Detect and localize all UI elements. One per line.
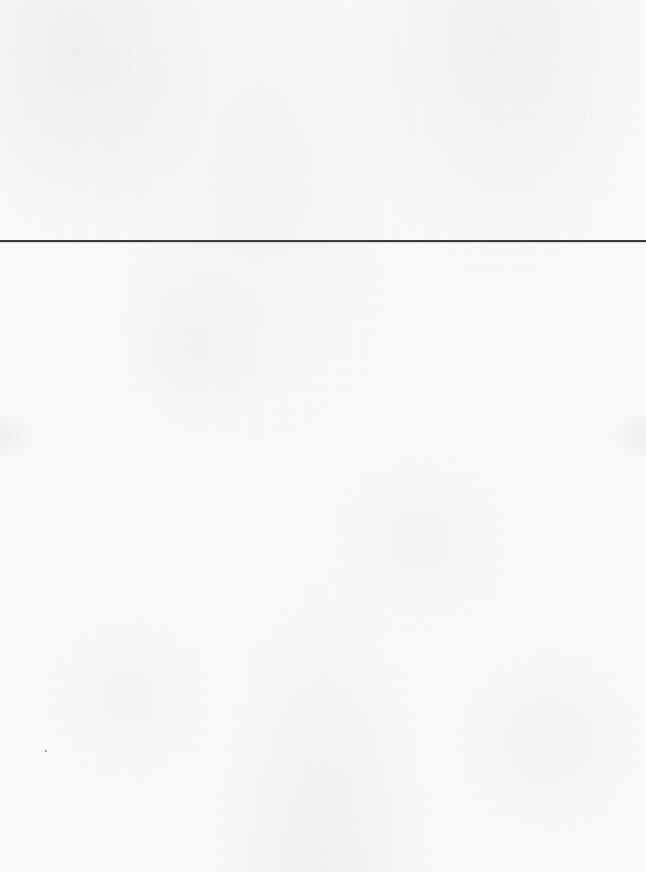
horizontal-rule [0, 240, 646, 242]
blank-paper-page [0, 0, 646, 872]
paper-texture [0, 0, 646, 872]
paper-speck [45, 750, 47, 752]
